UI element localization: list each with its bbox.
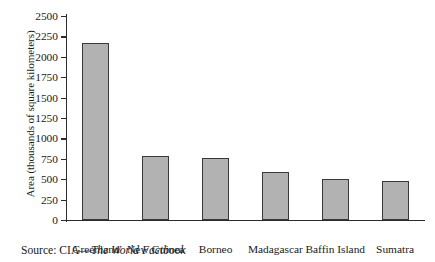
y-tick-label: 2250 (18, 28, 58, 44)
y-tick-label: 1500 (18, 90, 58, 106)
y-tick-mark (61, 36, 66, 37)
y-tick-label: 2000 (18, 49, 58, 65)
bar (322, 179, 349, 220)
bar (382, 181, 409, 220)
y-tick-label: 1250 (18, 110, 58, 126)
y-tick-mark (61, 159, 66, 160)
caption-book-title: The World Factbook (91, 244, 186, 257)
y-tick-label: 250 (18, 192, 58, 208)
plot-area: 02505007501000125015001750200022502500 G… (66, 16, 425, 220)
y-tick-label: 500 (18, 171, 58, 187)
y-axis-line (66, 14, 67, 222)
x-category-label: Sumatra (365, 242, 425, 257)
y-tick-mark (61, 138, 66, 139)
x-category-label: Borneo (186, 242, 246, 257)
source-caption: Source: CIA—The World Factbook (21, 243, 186, 258)
x-category-label: Madagascar (246, 242, 306, 257)
y-tick-label: 0 (18, 212, 58, 228)
y-tick-label: 2500 (18, 8, 58, 24)
y-tick-mark (61, 16, 66, 17)
y-tick-mark (61, 57, 66, 58)
bar (262, 172, 289, 220)
y-tick-label: 750 (18, 151, 58, 167)
y-tick-mark (61, 77, 66, 78)
x-category-label: Baffin Island (305, 242, 365, 257)
bar (82, 43, 109, 220)
bar (202, 158, 229, 220)
y-tick-mark (61, 179, 66, 180)
x-axis-line (66, 220, 425, 221)
y-tick-label: 1750 (18, 69, 58, 85)
caption-prefix: Source: CIA— (21, 244, 91, 257)
y-tick-mark (61, 200, 66, 201)
bar (142, 156, 169, 220)
y-tick-mark (61, 98, 66, 99)
y-tick-mark (61, 220, 66, 221)
bar-chart-figure: Area (thousands of square kilometers) 02… (0, 0, 435, 262)
y-tick-label: 1000 (18, 130, 58, 146)
y-tick-mark (61, 118, 66, 119)
